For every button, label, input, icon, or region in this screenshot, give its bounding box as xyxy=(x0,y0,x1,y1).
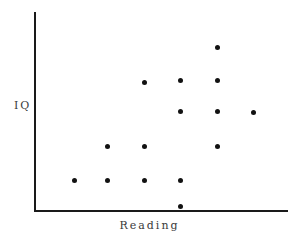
x-axis-line xyxy=(34,210,288,212)
y-axis-label: IQ xyxy=(14,99,31,112)
data-point xyxy=(142,80,147,85)
x-axis-label: Reading xyxy=(0,219,299,232)
y-axis-line xyxy=(34,12,36,212)
data-point xyxy=(142,178,147,183)
data-point xyxy=(178,178,183,183)
data-point xyxy=(142,144,147,149)
plot-area xyxy=(0,0,299,241)
data-point xyxy=(215,45,220,50)
data-point xyxy=(215,144,220,149)
data-point xyxy=(105,178,110,183)
data-point xyxy=(251,110,256,115)
data-point xyxy=(105,144,110,149)
data-point xyxy=(178,78,183,83)
data-point xyxy=(215,78,220,83)
data-point xyxy=(178,109,183,114)
scatter-plot-figure: IQ Reading xyxy=(0,0,299,241)
data-point xyxy=(215,109,220,114)
data-point xyxy=(178,204,183,209)
data-point xyxy=(72,178,77,183)
